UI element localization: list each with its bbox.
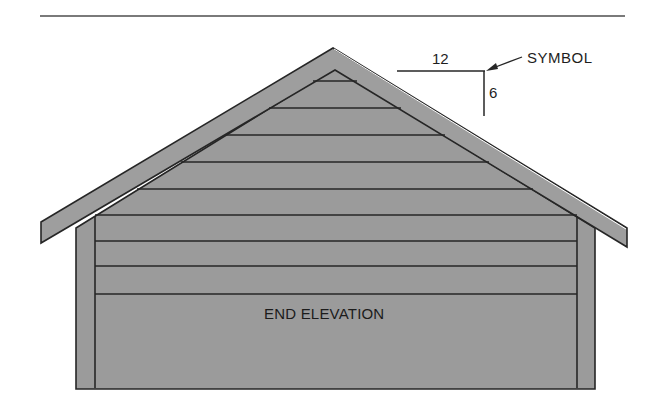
- callout-arrowhead-icon: [486, 63, 498, 71]
- wall-body: [76, 68, 595, 389]
- drawing-title-label: END ELEVATION: [264, 306, 384, 321]
- slope-run-label: 12: [432, 51, 449, 66]
- symbol-callout-label: SYMBOL: [527, 50, 593, 65]
- callout-leader-line: [493, 57, 522, 68]
- end-elevation-drawing: 12 6 SYMBOL END ELEVATION: [0, 0, 663, 419]
- slope-rise-label: 6: [489, 85, 497, 100]
